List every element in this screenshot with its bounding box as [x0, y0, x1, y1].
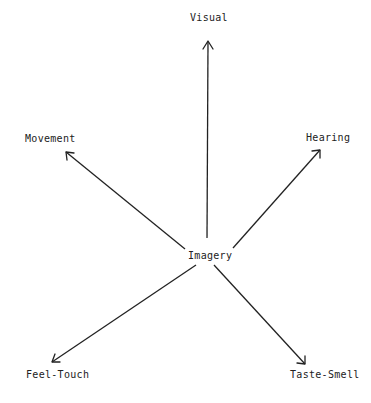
center-label-imagery: Imagery [188, 250, 232, 262]
branch-label-hearing: Hearing [306, 132, 350, 144]
arrow-taste-smell [214, 265, 305, 364]
arrow-visual [203, 41, 213, 238]
arrow-feel-touch [52, 265, 196, 362]
arrow-hearing [233, 150, 320, 248]
branch-label-visual: Visual [190, 12, 228, 24]
arrow-movement [66, 152, 185, 249]
branch-label-movement: Movement [25, 133, 76, 145]
diagram-arrows [0, 0, 371, 403]
branch-label-feel-touch: Feel-Touch [26, 369, 89, 381]
imagery-diagram: Imagery Visual Movement Hearing Feel-Tou… [0, 0, 371, 403]
branch-label-taste-smell: Taste-Smell [290, 369, 360, 381]
